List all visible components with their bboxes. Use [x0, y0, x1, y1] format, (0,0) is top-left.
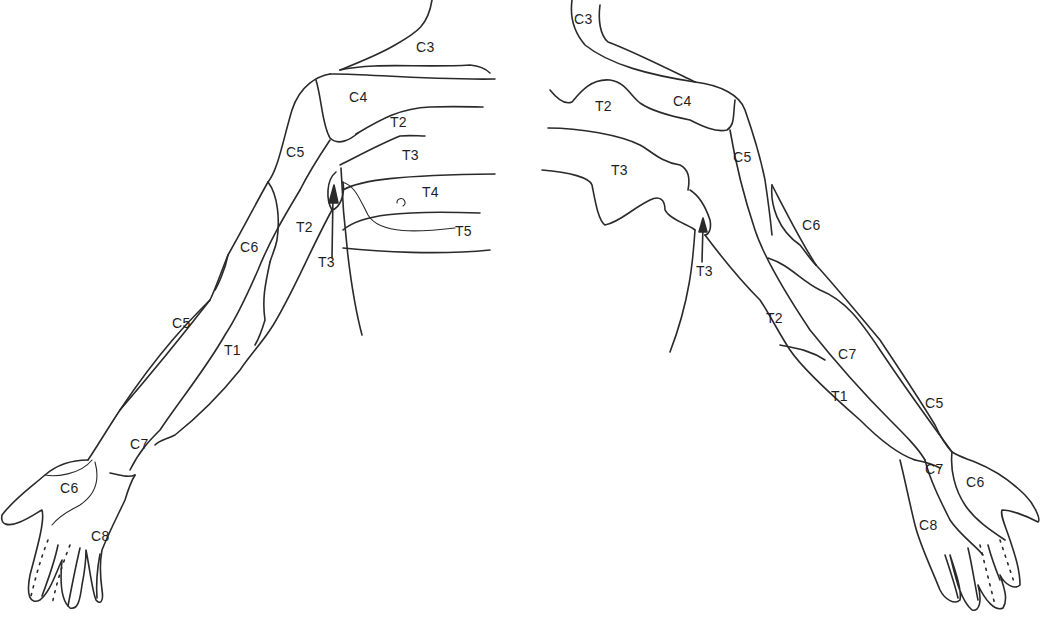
label-left-t2-arm: T2 — [296, 220, 313, 234]
label-right-c7-arm: C7 — [838, 347, 857, 361]
label-left-c7: C7 — [130, 437, 149, 451]
label-right-t2-chest: T2 — [595, 99, 612, 113]
label-left-t3-chest: T3 — [402, 148, 419, 162]
label-right-c6-arm: C6 — [802, 218, 821, 232]
label-left-t1: T1 — [224, 343, 241, 357]
label-left-t5: T5 — [455, 224, 472, 238]
label-right-c4: C4 — [673, 94, 692, 108]
label-left-c5-forearm: C5 — [172, 316, 191, 330]
dermatome-figure: C3 C4 T2 C5 T3 T4 T2 T5 C6 T3 C5 T1 C7 C… — [0, 0, 1041, 617]
right-arm-outline — [542, 0, 1039, 610]
label-left-c3: C3 — [416, 40, 435, 54]
label-right-c3: C3 — [574, 12, 593, 26]
left-arm-outline — [2, 0, 495, 608]
label-left-t3-axilla: T3 — [318, 255, 335, 269]
label-left-t2-chest: T2 — [390, 115, 407, 129]
label-left-t4: T4 — [422, 185, 439, 199]
label-right-c6-hand: C6 — [966, 475, 985, 489]
label-left-c6-arm: C6 — [240, 240, 259, 254]
dermatome-line-art — [0, 0, 1041, 617]
label-right-c5-forearm: C5 — [925, 396, 944, 410]
label-left-c5-shoulder: C5 — [286, 145, 305, 159]
label-right-c7-wrist: C7 — [925, 462, 944, 476]
label-left-c8: C8 — [91, 529, 110, 543]
label-right-t1: T1 — [831, 389, 848, 403]
label-right-t3-axilla: T3 — [696, 264, 713, 278]
label-right-c5-shoulder: C5 — [733, 150, 752, 164]
label-left-c4: C4 — [349, 90, 368, 104]
label-right-c8: C8 — [919, 518, 938, 532]
label-right-t2-arm: T2 — [766, 311, 783, 325]
label-left-c6-hand: C6 — [60, 481, 79, 495]
label-right-t3-chest: T3 — [611, 163, 628, 177]
